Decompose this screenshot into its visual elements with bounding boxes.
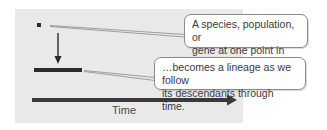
callout-1-line-1: A species, population, or — [192, 18, 300, 44]
leader-line-2 — [84, 71, 155, 81]
callout-2-line-1: …becomes a lineage as we follow — [162, 61, 298, 87]
lineage-bar — [34, 68, 82, 72]
callout-point-description: A species, population, or gene at one po… — [184, 14, 308, 48]
leader-line-1 — [50, 26, 185, 38]
time-axis-label: Time — [112, 104, 136, 116]
callout-2-line-2: its descendants through time. — [162, 87, 298, 113]
callout-lineage-description: …becomes a lineage as we follow its desc… — [154, 57, 306, 90]
point-marker — [37, 23, 41, 27]
down-arrow-icon — [55, 33, 62, 64]
